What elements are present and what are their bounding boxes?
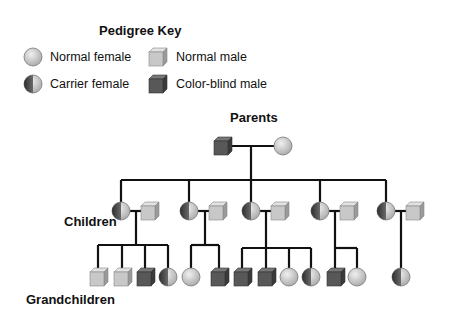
grandchild-colorblind-male (234, 268, 252, 286)
key-title: Pedigree Key (99, 23, 181, 38)
child-carrier-female (311, 202, 329, 220)
child-spouse-normal-male (406, 202, 424, 220)
parents-label: Parents (230, 110, 278, 125)
colorblind-male-key-icon (149, 75, 167, 93)
normal-female-key-icon (24, 48, 42, 66)
key-label-carrier-female: Carrier female (50, 77, 129, 91)
grandchild-normal-female (280, 268, 298, 286)
children-label: Children (64, 214, 117, 229)
child-carrier-female (180, 202, 198, 220)
key-label-normal-male: Normal male (176, 50, 247, 64)
parent-normal-female (274, 137, 292, 155)
key-label-colorblind-male: Color-blind male (176, 77, 267, 91)
pedigree-diagram (0, 0, 450, 323)
grandchild-colorblind-male (327, 268, 345, 286)
child-spouse-normal-male (141, 202, 159, 220)
grandchild-carrier-female (159, 268, 177, 286)
grandchild-carrier-female (302, 268, 320, 286)
child-spouse-normal-male (271, 202, 289, 220)
grandchild-normal-male (90, 268, 108, 286)
grandchild-normal-female (182, 268, 200, 286)
child-carrier-female (377, 202, 395, 220)
grandchildren-label: Grandchildren (26, 292, 115, 307)
grandchild-normal-female (348, 268, 366, 286)
grandchild-carrier-female (392, 268, 410, 286)
carrier-female-key-icon (24, 75, 42, 93)
grandchild-colorblind-male (137, 268, 155, 286)
grandchild-colorblind-male (211, 268, 229, 286)
normal-male-key-icon (149, 48, 167, 66)
grandchild-normal-male (114, 268, 132, 286)
child-spouse-normal-male (340, 202, 358, 220)
grandchild-colorblind-male (258, 268, 276, 286)
child-spouse-normal-male (209, 202, 227, 220)
key-label-normal-female: Normal female (50, 50, 131, 64)
parent-colorblind-male (214, 137, 232, 155)
child-carrier-female (242, 202, 260, 220)
